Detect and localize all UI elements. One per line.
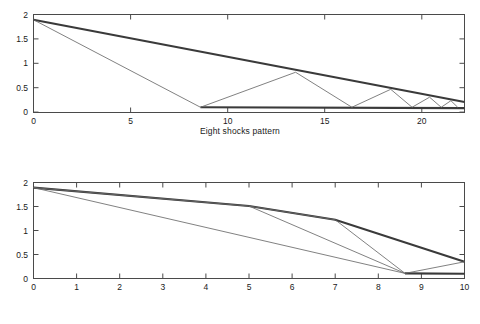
chart-series-line bbox=[200, 72, 351, 107]
chart-series-line bbox=[412, 97, 441, 107]
y-tick-label: 1.5 bbox=[16, 202, 28, 212]
x-tick-label: 0 bbox=[31, 116, 36, 126]
y-tick-label: 0.5 bbox=[16, 83, 28, 93]
chart-panel-four-shocks: 012345678910 2 1.5 1 0.5 0 Four shocks p… bbox=[0, 165, 480, 324]
x-tick-label: 20 bbox=[417, 116, 427, 126]
x-tick-label: 9 bbox=[419, 282, 424, 292]
x-tick-label: 15 bbox=[320, 116, 330, 126]
x-tick-label: 1 bbox=[74, 282, 79, 292]
chart-svg-four-shocks: 012345678910 2 1.5 1 0.5 0 bbox=[0, 165, 480, 324]
x-tick-label: 7 bbox=[333, 282, 338, 292]
x-axis-ticks-bottom bbox=[34, 183, 465, 279]
x-tick-labels-top: 0 5 10 15 20 bbox=[31, 116, 427, 126]
x-tick-label: 3 bbox=[160, 282, 165, 292]
y-axis-ticks-bottom bbox=[34, 183, 465, 279]
x-axis-ticks-top bbox=[34, 15, 422, 113]
axis-frame-bottom bbox=[34, 183, 465, 279]
x-tick-label: 0 bbox=[31, 282, 36, 292]
x-tick-label: 10 bbox=[223, 116, 233, 126]
chart-panel-eight-shocks: 2 1.5 1 0.5 0 0 5 10 15 20 Eight shocks … bbox=[0, 0, 480, 150]
chart-series-line bbox=[34, 188, 465, 262]
x-tick-label: 2 bbox=[117, 282, 122, 292]
chart-series-line bbox=[405, 262, 464, 274]
figure-shock-patterns: 2 1.5 1 0.5 0 0 5 10 15 20 Eight shocks … bbox=[0, 0, 480, 324]
x-tick-label: 4 bbox=[204, 282, 209, 292]
plot-area-eight-shocks bbox=[34, 20, 465, 108]
chart-series-line bbox=[352, 89, 412, 107]
y-tick-label: 0.5 bbox=[16, 250, 28, 260]
y-tick-label: 2 bbox=[23, 178, 28, 188]
chart-series-line bbox=[34, 20, 201, 108]
x-tick-label: 6 bbox=[290, 282, 295, 292]
axis-frame-top bbox=[34, 15, 465, 113]
plot-area-four-shocks bbox=[34, 188, 465, 274]
x-tick-label: 5 bbox=[247, 282, 252, 292]
caption-eight-shocks: Eight shocks pattern bbox=[0, 126, 480, 136]
x-tick-label: 10 bbox=[460, 282, 470, 292]
y-tick-labels-bottom: 2 1.5 1 0.5 0 bbox=[16, 178, 28, 284]
x-tick-label: 5 bbox=[128, 116, 133, 126]
chart-series-line bbox=[200, 107, 464, 108]
x-tick-label: 8 bbox=[376, 282, 381, 292]
chart-series-line bbox=[441, 101, 458, 108]
x-tick-labels-bottom: 012345678910 bbox=[31, 282, 469, 292]
y-tick-label: 1.5 bbox=[16, 34, 28, 44]
y-tick-label: 1 bbox=[23, 58, 28, 68]
y-tick-label: 1 bbox=[23, 226, 28, 236]
y-tick-labels-top: 2 1.5 1 0.5 0 bbox=[16, 10, 28, 118]
y-tick-label: 2 bbox=[23, 10, 28, 20]
y-tick-label: 0 bbox=[23, 274, 28, 284]
y-tick-label: 0 bbox=[23, 107, 28, 117]
